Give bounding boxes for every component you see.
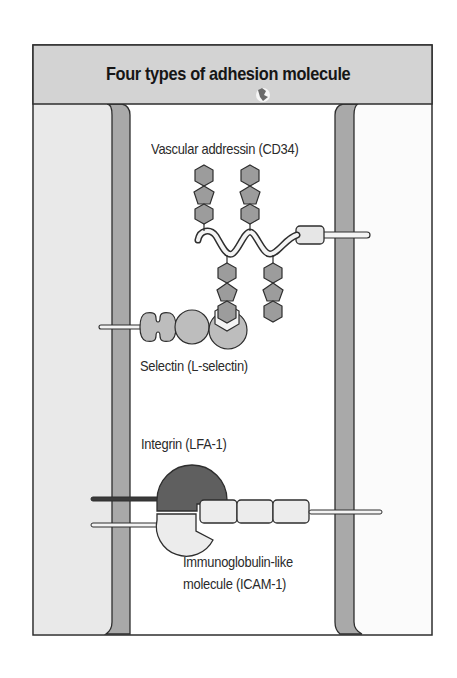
print-blemish [256,88,270,102]
label-vascular-addressin: Vascular addressin (CD34) [151,140,298,157]
label-selectin: Selectin (L-selectin) [140,357,248,374]
label-integrin: Integrin (LFA-1) [141,435,227,452]
adhesion-molecule-diagram: Four types of adhesion molecule Vascular… [0,0,457,678]
diagram-title-text: Four types of adhesion molecule [106,63,350,85]
diagram-title: Four types of adhesion molecule [0,63,457,85]
left-cell-region [34,104,114,634]
label-immunoglobulin-line2: molecule (ICAM-1) [183,575,286,592]
label-immunoglobulin-line1: Immunoglobulin-like [183,553,293,570]
right-cell-region [352,104,431,634]
